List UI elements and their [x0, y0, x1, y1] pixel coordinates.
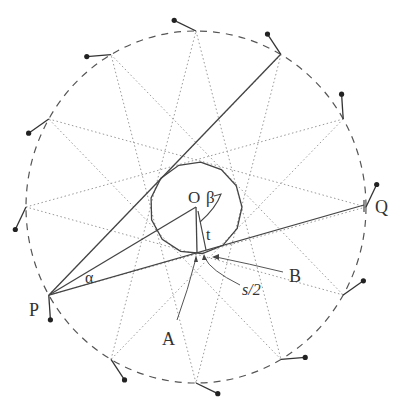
marker-stem — [342, 94, 344, 119]
marker-dot — [339, 92, 344, 97]
marker-dot — [265, 32, 270, 37]
line-P-to-Q — [49, 205, 364, 295]
line-P-to-upper-point — [49, 55, 280, 295]
marker-dot — [122, 377, 127, 382]
marker-stem — [174, 20, 196, 31]
marker-dot — [303, 355, 308, 360]
arrow-s-half-head — [202, 254, 207, 260]
marker-stem — [281, 357, 305, 359]
label-alpha: α — [85, 269, 94, 286]
label-B: B — [289, 266, 301, 286]
marker-stem — [49, 295, 51, 320]
marker-dot — [13, 227, 18, 232]
label-t: t — [206, 226, 211, 243]
label-s-half: s/2 — [242, 281, 261, 298]
marker-stem — [196, 383, 218, 394]
label-P: P — [29, 300, 39, 320]
geometry-figure: O β t Q P α A B s/2 — [0, 0, 413, 416]
marker-stem — [343, 281, 363, 295]
marker-stem — [15, 207, 26, 230]
line-P-to-O — [49, 207, 196, 295]
star-line — [111, 31, 196, 359]
marker-dot — [172, 18, 177, 23]
label-O: O — [188, 188, 200, 207]
arrow-A — [177, 258, 196, 320]
marker-stem — [111, 359, 125, 379]
marker-dot — [361, 278, 366, 283]
marker-dot — [84, 54, 89, 59]
star-line — [196, 55, 281, 383]
label-Q: Q — [375, 197, 388, 217]
marker-stem — [267, 34, 281, 54]
arrow-B — [216, 257, 283, 272]
label-A: A — [162, 329, 175, 349]
marker-dot — [215, 391, 220, 396]
arrow-A-head — [194, 255, 198, 262]
star-line — [26, 119, 343, 207]
marker-dot — [26, 131, 31, 136]
diagram-canvas: O β t Q P α A B s/2 — [0, 0, 413, 416]
star-line — [111, 55, 196, 383]
star-line — [111, 119, 343, 359]
marker-dot — [48, 317, 53, 322]
arrow-s-half — [205, 258, 240, 285]
label-beta: β — [206, 188, 215, 207]
marker-stem — [29, 119, 49, 133]
marker-dot — [374, 182, 379, 187]
line-O-to-A — [196, 207, 197, 253]
